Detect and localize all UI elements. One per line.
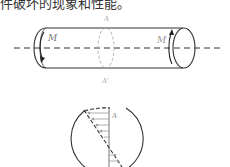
cross-section-point-label: A: [111, 112, 117, 120]
section-top-label: A: [103, 15, 109, 23]
cross-section: A: [71, 108, 143, 167]
torsion-diagram: M M A A' A: [0, 0, 230, 167]
left-moment-label: M: [47, 33, 58, 43]
right-moment-label: M: [156, 35, 167, 45]
section-bottom-label: A': [101, 77, 109, 85]
